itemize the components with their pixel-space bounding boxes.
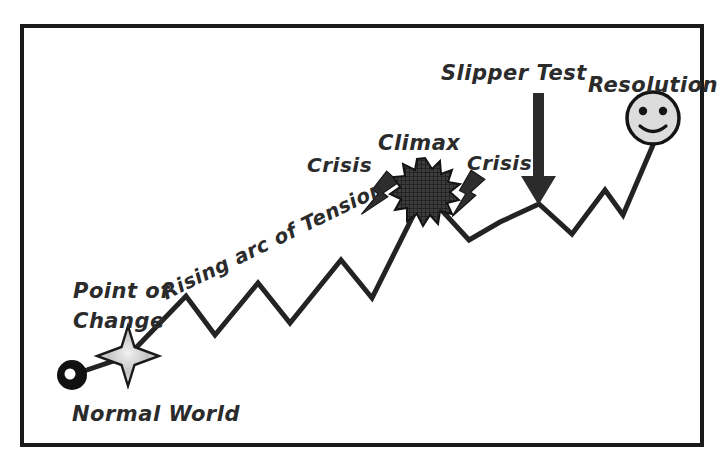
down-arrow-shaft [533, 93, 544, 179]
normal-world-marker [57, 360, 87, 390]
smiley-eye-left [639, 107, 647, 115]
story-arc-diagram: Normal World Point of Change Rising arc … [0, 0, 723, 464]
label-normal-world: Normal World [72, 402, 240, 426]
label-crisis-right: Crisis [467, 151, 532, 175]
black-ring-hole [65, 369, 76, 380]
smiley-eye-right [659, 107, 667, 115]
label-resolution: Resolution [588, 73, 718, 97]
label-point-of-change-line2: Change [73, 309, 165, 333]
resolution-marker [627, 92, 679, 144]
label-climax: Climax [378, 131, 461, 155]
diagram-canvas: Normal World Point of Change Rising arc … [0, 0, 723, 464]
label-slipper-test: Slipper Test [441, 61, 587, 85]
background [0, 0, 723, 464]
label-crisis-left: Crisis [307, 153, 372, 177]
smiley-face-icon [627, 92, 679, 144]
